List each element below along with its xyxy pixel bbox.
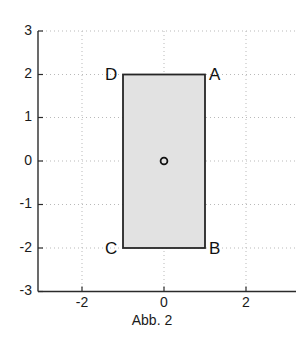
y-tick-label-0: 0 <box>24 152 32 168</box>
x-tick-label-2: 2 <box>242 294 250 310</box>
x-tick-labels: -2 0 2 <box>76 294 250 310</box>
corner-label-b: B <box>209 239 220 258</box>
corner-label-a: A <box>209 65 221 84</box>
y-axis-ticks <box>38 31 43 292</box>
y-tick-label-1: 1 <box>24 108 32 124</box>
y-tick-label--2: -2 <box>20 239 33 255</box>
x-axis-ticks <box>82 287 246 292</box>
figure-container: 3 2 1 0 -1 -2 -3 -2 0 2 D A C B Abb. 2 <box>0 0 298 342</box>
y-tick-label--3: -3 <box>20 282 33 298</box>
corner-label-c: C <box>105 239 117 258</box>
y-tick-label--1: -1 <box>20 195 33 211</box>
y-tick-label-3: 3 <box>24 22 32 38</box>
figure-caption: Abb. 2 <box>132 312 173 328</box>
x-tick-label--2: -2 <box>76 294 89 310</box>
plot-canvas: 3 2 1 0 -1 -2 -3 -2 0 2 D A C B Abb. 2 <box>0 0 298 342</box>
corner-label-d: D <box>105 65 117 84</box>
rectangle-abcd <box>123 75 205 249</box>
y-tick-labels: 3 2 1 0 -1 -2 -3 <box>20 22 33 299</box>
y-tick-label-2: 2 <box>24 65 32 81</box>
x-tick-label-0: 0 <box>160 294 168 310</box>
